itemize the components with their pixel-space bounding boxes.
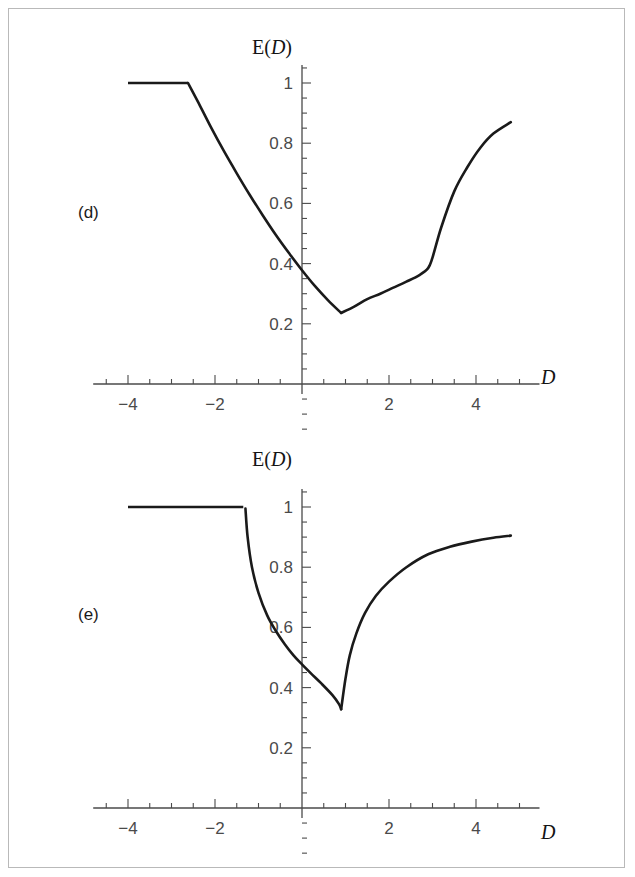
panel-e: (e) E(D) D −4−2240.20.40.60.81 (0, 430, 635, 870)
curve-descending-segment (245, 509, 341, 710)
x-axis-tick-label: −2 (205, 395, 224, 414)
x-axis-tick-label: 2 (384, 819, 393, 838)
x-axis-tick-label: −4 (118, 819, 137, 838)
y-axis-tick-label: 0.4 (269, 679, 293, 698)
y-axis-tick-label: 1 (284, 498, 293, 517)
curve-ascending-segment (341, 122, 511, 313)
y-axis-tick-label: 0.2 (269, 739, 293, 758)
panel-d-plot: −4−2240.20.40.60.81 (0, 8, 635, 433)
y-axis-tick-label: 0.4 (269, 255, 293, 274)
y-axis-tick-label: 1 (284, 74, 293, 93)
panel-e-plot: −4−2240.20.40.60.81 (0, 430, 635, 870)
y-axis-tick-label: 0.8 (269, 134, 293, 153)
x-axis-tick-label: 4 (471, 819, 480, 838)
panel-d: (d) E(D) D −4−2240.20.40.60.81 (0, 8, 635, 433)
figure-page: (d) E(D) D −4−2240.20.40.60.81 (e) E(D) … (0, 0, 635, 877)
x-axis-tick-label: 2 (384, 395, 393, 414)
y-axis-tick-label: 0.6 (269, 194, 293, 213)
curve-descending-segment (188, 83, 341, 313)
x-axis-tick-label: 4 (471, 395, 480, 414)
x-axis-tick-label: −4 (118, 395, 137, 414)
y-axis-tick-label: 0.2 (269, 315, 293, 334)
curve-ascending-segment (341, 536, 511, 710)
x-axis-tick-label: −2 (205, 819, 224, 838)
y-axis-tick-label: 0.8 (269, 558, 293, 577)
